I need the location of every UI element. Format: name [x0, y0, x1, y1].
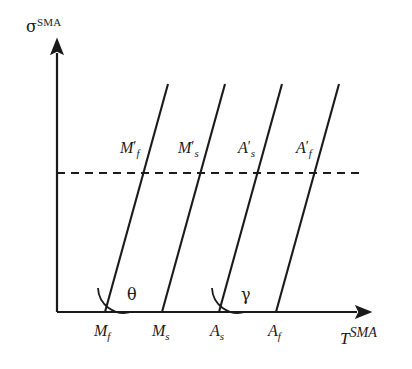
- axis-tick-label-Mf-sub: f: [107, 330, 110, 342]
- temperature-axis-label: TSMA: [340, 325, 377, 347]
- sigma-symbol: σ: [26, 17, 37, 36]
- axis-tick-label-Ms: Ms: [152, 323, 170, 339]
- axis-tick-label-Af: Af: [268, 323, 281, 339]
- label-Mf-primed-base: M: [120, 139, 133, 156]
- diagram-svg: [0, 0, 412, 369]
- label-Ms-primed-base: M: [178, 139, 191, 156]
- angle-label-theta: θ: [127, 287, 137, 303]
- label-Af-primed-base: A: [296, 139, 306, 156]
- label-Ms-primed: M′s: [178, 140, 199, 156]
- axis-tick-label-As: As: [210, 323, 224, 339]
- label-Af-primed-sub: f: [309, 147, 312, 159]
- transformation-line-Ms: [162, 84, 225, 312]
- transformation-line-Mf: [105, 84, 168, 312]
- axis-tick-label-Mf: Mf: [94, 323, 110, 339]
- label-Mf-primed: M′f: [120, 140, 139, 156]
- axis-tick-label-As-sub: s: [220, 330, 224, 342]
- label-Ms-primed-sub: s: [194, 147, 198, 159]
- axis-tick-label-Ms-sub: s: [165, 330, 169, 342]
- label-As-primed-sub: s: [251, 147, 255, 159]
- figure-canvas: σSMA TSMA M′f M′s A′s A′f θ γ Mf Ms As A…: [0, 0, 412, 369]
- angle-label-gamma: γ: [241, 287, 251, 303]
- transformation-line-As: [219, 84, 282, 312]
- axis-tick-label-Mf-base: M: [94, 322, 107, 339]
- label-Mf-primed-sub: f: [136, 147, 139, 159]
- axis-tick-label-Ms-base: M: [152, 322, 165, 339]
- temperature-axis-superscript: SMA: [349, 324, 377, 340]
- label-As-primed: A′s: [238, 140, 255, 156]
- transformation-line-Af: [276, 84, 339, 312]
- axis-tick-label-Af-sub: f: [278, 330, 281, 342]
- label-As-primed-base: A: [238, 139, 248, 156]
- label-Af-primed: A′f: [296, 140, 312, 156]
- stress-axis-label: σSMA: [26, 19, 61, 35]
- stress-axis-superscript: SMA: [37, 16, 61, 28]
- axis-tick-label-Af-base: A: [268, 322, 278, 339]
- axis-tick-label-As-base: A: [210, 322, 220, 339]
